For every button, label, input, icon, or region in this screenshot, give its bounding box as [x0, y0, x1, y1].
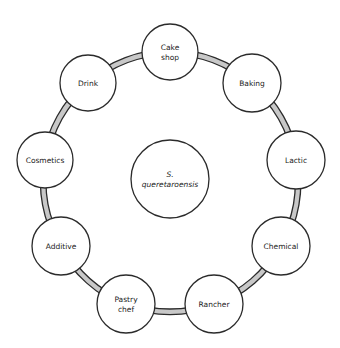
node-label: Drink: [78, 79, 99, 88]
node-cake-shop: Cakeshop: [142, 24, 198, 80]
node-label: Rancher: [199, 300, 231, 309]
center-node-s-queretaroensis: S.queretaroensis: [131, 140, 209, 218]
node-label: Lactic: [285, 156, 307, 165]
node-cosmetics: Cosmetics: [17, 132, 73, 188]
node-label: Additive: [46, 242, 77, 251]
node-label: Cosmetics: [26, 156, 65, 165]
node-chemical: Chemical: [252, 217, 310, 275]
node-label: chef: [118, 305, 134, 314]
node-label: Pastry: [114, 295, 138, 304]
node-baking: Baking: [223, 54, 281, 112]
node-label: Cake: [161, 43, 180, 52]
ecosystem-diagram: CakeshopBakingLacticChemicalRancherPastr…: [0, 0, 340, 348]
node-lactic: Lactic: [267, 131, 325, 189]
node-label: Baking: [239, 79, 265, 88]
node-additive: Additive: [32, 217, 90, 275]
node-label: S.: [166, 170, 173, 179]
node-rancher: Rancher: [185, 275, 243, 333]
node-drink: Drink: [60, 55, 116, 111]
node-pastry-chef: Pastrychef: [97, 275, 155, 333]
node-label: Chemical: [264, 242, 299, 251]
node-label: shop: [161, 53, 179, 62]
center-node: S.queretaroensis: [131, 140, 209, 218]
node-label: queretaroensis: [142, 180, 198, 189]
